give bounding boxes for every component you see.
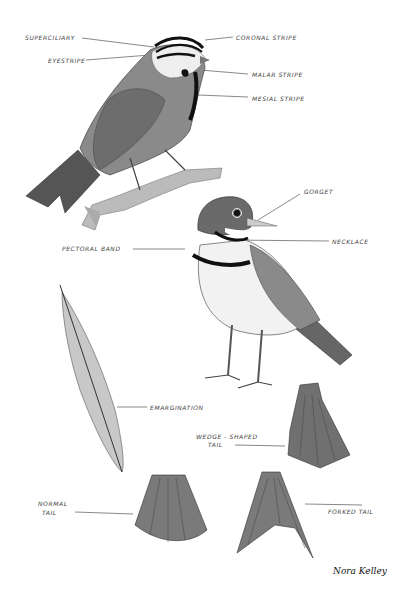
label-gorget: Gorget [304, 188, 333, 195]
wedge-tail-illustration [288, 383, 350, 468]
label-necklace: Necklace [332, 238, 369, 245]
label-mesial-stripe: Mesial stripe [252, 95, 305, 102]
label-normal-tail-line1: Normal [38, 500, 68, 507]
label-pectoral-band: Pectoral band [62, 245, 121, 252]
plover-illustration [193, 197, 352, 388]
label-wedge-shaped-tail-line1: Wedge - shaped [196, 433, 258, 440]
illustration-canvas [0, 0, 400, 607]
label-eyestripe: Eyestripe [48, 57, 85, 64]
label-emargination: Emargination [150, 404, 204, 411]
feather-illustration [60, 285, 123, 472]
label-malar-stripe: Malar stripe [252, 71, 303, 78]
artist-signature: Nora Kelley [333, 566, 387, 576]
sparrow-illustration [26, 38, 222, 230]
label-normal-tail-line2: tail [42, 509, 57, 516]
label-coronal-stripe: Coronal stripe [236, 34, 297, 41]
label-wedge-shaped-tail-line2: tail [208, 441, 223, 448]
normal-tail-illustration [135, 475, 207, 542]
forked-tail-illustration [237, 472, 313, 558]
label-forked-tail: Forked tail [328, 508, 374, 515]
label-superciliary: Superciliary [25, 34, 75, 41]
